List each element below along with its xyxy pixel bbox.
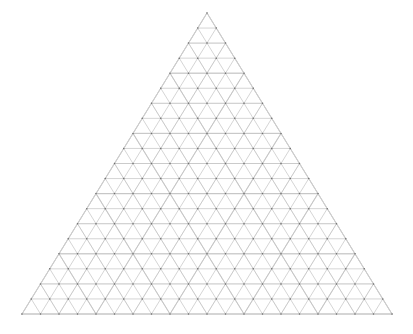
lattice-vertex-dot [216,268,218,270]
lattice-vertex-dot [243,72,245,74]
lattice-vertex-dot [216,118,218,120]
lattice-vertex-dot [169,163,171,165]
lattice-vertex-dot [317,283,319,285]
lattice-vertex-dot [253,118,255,120]
lattice-vertex-dot [142,178,144,180]
lattice-vertex-dot [132,163,134,165]
lattice-vertex-dot [216,27,218,29]
lattice-vertex-dot [354,283,356,285]
lattice-vertex-dot [169,313,171,315]
lattice-vertex-dot [188,103,190,105]
lattice-vertex-dot [364,268,366,270]
lattice-vertex-dot [206,72,208,74]
lattice-vertex-dot [68,298,70,300]
lattice-vertex-dot [68,268,70,270]
lattice-vertex-dot [225,42,227,44]
lattice-vertex-dot [86,298,88,300]
lattice-vertex-dot [225,163,227,165]
lattice-vertex-dot [225,72,227,74]
lattice-vertex-dot [197,118,199,120]
lattice-vertex-dot [188,283,190,285]
lattice-vertex-dot [234,298,236,300]
lattice-vertex-dot [179,238,181,240]
lattice-vertex-dot [262,163,264,165]
lattice-vertex-dot [262,283,264,285]
lattice-vertex-dot [253,88,255,90]
lattice-vertex-dot [317,253,319,255]
lattice-vertex-dot [354,313,356,315]
lattice-line [124,148,226,314]
lattice-vertex-dot [151,133,153,135]
lattice-vertex-dot [299,283,301,285]
lattice-vertex-dot [364,298,366,300]
lattice-vertex-dot [280,193,282,195]
lattice-vertex-dot [160,298,162,300]
lattice-vertex-dot [234,57,236,59]
lattice-vertex-dot [271,298,273,300]
lattice-line [189,148,291,314]
lattice-vertex-dot [308,178,310,180]
lattice-vertex-dot [391,313,393,315]
lattice-vertex-dot [243,283,245,285]
lattice-line [374,299,383,314]
lattice-vertex-dot [373,283,375,285]
lattice-vertex-dot [49,268,51,270]
lattice-vertex-dot [234,88,236,90]
lattice-vertex-dot [234,238,236,240]
lattice-vertex-dot [216,178,218,180]
lattice-vertex-dot [188,72,190,74]
lattice-vertex-dot [262,313,264,315]
lattice-vertex-dot [114,253,116,255]
lattice-vertex-dot [132,133,134,135]
lattice-vertex-dot [317,313,319,315]
lattice-line [105,179,188,314]
lattice-vertex-dots-layer [21,12,393,315]
lattice-vertex-dot [262,193,264,195]
lattice-vertex-dot [77,283,79,285]
lattice-vertex-dot [31,298,33,300]
lattice-vertex-dot [188,253,190,255]
lattice-vertex-dot [234,268,236,270]
lattice-vertex-dot [345,238,347,240]
lattice-vertex-dot [253,238,255,240]
lattice-vertex-dot [243,223,245,225]
lattice-vertex-dot [179,178,181,180]
lattice-vertex-dot [169,283,171,285]
lattice-vertex-dot [197,298,199,300]
lattice-vertex-dot [253,298,255,300]
lattice-vertex-dot [243,313,245,315]
lattice-vertex-dot [160,238,162,240]
lattice-vertex-dot [290,208,292,210]
lattice-vertex-dot [86,208,88,210]
lattice-vertex-dot [206,283,208,285]
lattice-vertex-dot [280,283,282,285]
lattice-vertex-dot [179,208,181,210]
lattice-vertex-dot [58,253,60,255]
lattice-vertex-dot [317,223,319,225]
lattice-vertex-dot [95,283,97,285]
lattice-vertex-dot [234,178,236,180]
lattice-line [300,239,346,314]
lattice-vertex-dot [206,103,208,105]
lattice-vertex-dot [40,313,42,315]
lattice-vertex-dot [206,163,208,165]
lattice-vertex-dot [336,223,338,225]
lattice-vertex-dot [188,42,190,44]
lattice-vertex-dot [290,178,292,180]
lattice-vertex-dot [345,298,347,300]
lattice-vertex-dot [142,268,144,270]
lattice-vertex-dot [225,283,227,285]
lattice-vertex-dot [336,253,338,255]
lattice-vertex-dot [132,313,134,315]
lattice-vertex-dot [271,238,273,240]
lattice-vertex-dot [160,208,162,210]
lattice-vertex-dot [280,313,282,315]
lattice-vertex-dot [58,283,60,285]
lattice-vertex-dot [151,223,153,225]
lattice-vertex-dot [151,253,153,255]
lattice-vertex-dot [262,103,264,105]
lattice-vertex-dot [243,253,245,255]
lattice-vertex-dot [179,268,181,270]
lattice-vertex-dot [142,118,144,120]
lattice-line [161,88,300,314]
